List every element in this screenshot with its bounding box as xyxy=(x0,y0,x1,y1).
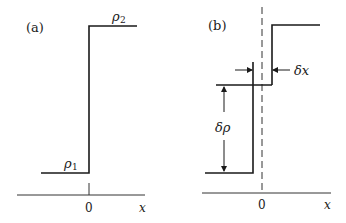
panel-a-axis-label: x xyxy=(139,201,146,215)
panel-a-label: (a) xyxy=(26,20,44,35)
diagram-canvas: (a) 0 x ρ 2 ρ 1 (b) 0 x δx δρ xyxy=(0,0,346,223)
svg-text:1: 1 xyxy=(72,162,78,172)
delta-x-label: δx xyxy=(294,63,310,78)
panel-b-lower-step xyxy=(205,62,253,173)
panel-b-axis-label: x xyxy=(324,198,331,212)
rho-1-label: ρ 1 xyxy=(63,156,78,172)
panel-a-origin-label: 0 xyxy=(85,201,93,215)
delta-rho-label: δρ xyxy=(215,120,231,135)
panel-a: (a) 0 x ρ 2 ρ 1 xyxy=(17,9,146,215)
svg-text:2: 2 xyxy=(120,15,126,25)
panel-b-label: (b) xyxy=(208,18,226,33)
panel-b-origin-label: 0 xyxy=(258,198,266,212)
svg-text:ρ: ρ xyxy=(63,156,72,171)
rho-2-label: ρ 2 xyxy=(111,9,126,25)
svg-text:ρ: ρ xyxy=(111,9,120,24)
panel-a-step-profile xyxy=(41,26,137,173)
panel-b: (b) 0 x δx δρ xyxy=(202,7,331,212)
